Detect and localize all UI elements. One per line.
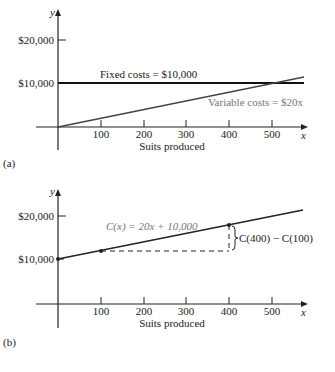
chart-b: y x $20,000 $10,000 100 200 300 400 500 … [3,185,313,349]
panel-label-a: (a) [3,157,16,170]
y-tick-10000-a: $10,000 [18,77,54,89]
x-tick-100-a: 100 [93,128,110,140]
x-title-b: Suits produced [139,317,205,329]
point-c100 [99,249,103,253]
x-tick-300-a: 300 [178,128,195,140]
y-tick-20000-b: $20,000 [18,210,54,222]
x-tick-300-b: 300 [178,305,195,317]
x-title-a: Suits produced [139,140,205,152]
figure: y x $20,000 $10,000 100 200 300 400 500 … [0,0,335,372]
x-tick-500-b: 500 [264,305,281,317]
variable-cost-label: Variable costs = $20x [208,96,304,108]
x-tick-100-b: 100 [93,305,110,317]
brace-icon [232,226,238,250]
y-tick-20000-a: $20,000 [18,34,54,46]
chart-a: y x $20,000 $10,000 100 200 300 400 500 … [3,6,308,170]
x-axis-label-a: x [300,129,306,141]
cost-function-label: C(x) = 20x + 10,000 [106,220,198,233]
difference-label: C(400) − C(100) [239,232,313,245]
y-axis-arrow-icon [55,189,61,196]
y-axis-label-a: y [49,6,55,18]
fixed-cost-label: Fixed costs = $10,000 [100,68,198,80]
y-axis-arrow-icon [55,9,61,16]
x-axis-label-b: x [300,306,306,318]
point-c400 [227,223,231,227]
y-axis-label-b: y [49,185,55,197]
panel-label-b: (b) [3,336,16,349]
y-tick-10000-b: $10,000 [18,253,54,265]
x-tick-200-a: 200 [136,128,153,140]
x-tick-500-a: 500 [264,128,281,140]
x-tick-400-a: 400 [221,128,238,140]
x-tick-200-b: 200 [136,305,153,317]
point-c0 [56,257,60,261]
x-tick-400-b: 400 [221,305,238,317]
